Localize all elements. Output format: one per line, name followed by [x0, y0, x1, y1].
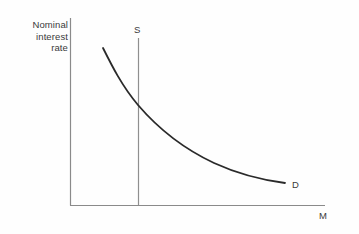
y-axis-title: Nominal interest rate [8, 19, 68, 54]
supply-curve-label: S [134, 25, 140, 35]
demand-curve-label: D [292, 180, 299, 190]
money-market-diagram: Nominal interest rate S D M [0, 0, 359, 234]
demand-curve-path [103, 48, 285, 183]
x-axis-title: M [319, 211, 327, 221]
